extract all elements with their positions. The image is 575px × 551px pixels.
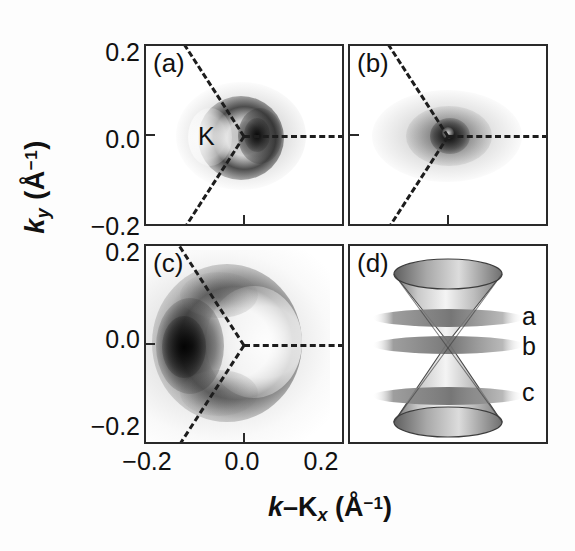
x-tick--0.2: −0.2 (111, 447, 183, 476)
x-tick-0.0: 0.0 (206, 447, 278, 476)
panel-a-xtick-0 (243, 215, 245, 224)
panel-a-label: (a) (153, 48, 185, 79)
plane-label-a: a (522, 302, 536, 331)
panel-c-xtick-0 (243, 433, 245, 442)
x-axis-label: k–Kx (Å−1) (120, 492, 540, 526)
panel-b: (b) (348, 44, 548, 226)
y-tick-bottom--0.2: −0.2 (91, 412, 140, 441)
y-tick-bottom-0.2: 0.2 (105, 238, 140, 267)
bz-line-c-right (244, 344, 344, 347)
y-tick-top--0.2: −0.2 (91, 212, 140, 241)
upper-cone-cap (394, 259, 502, 289)
energy-plane-a (372, 309, 524, 327)
lower-cone-cap (394, 407, 502, 437)
bz-line-a-right (244, 135, 344, 138)
bz-line-b-right (448, 135, 548, 138)
panel-c: (c) (144, 244, 344, 444)
k-point-label: K (198, 122, 215, 151)
x-tick-0.2: 0.2 (285, 447, 357, 476)
panel-a: K (a) (144, 44, 344, 226)
y-tick-label-column: 0.2 0.0 −0.2 0.2 0.0 −0.2 (48, 0, 140, 445)
panel-b-label: (b) (357, 48, 389, 79)
panel-c-ytick-0 (146, 343, 155, 345)
panel-d: (d) (348, 244, 548, 444)
panel-a-ytick-0 (146, 134, 155, 136)
energy-plane-c (372, 387, 524, 405)
panel-c-label: (c) (153, 248, 183, 279)
y-tick-top-0.0: 0.0 (105, 125, 140, 154)
energy-plane-b (372, 336, 524, 354)
y-tick-bottom-0.0: 0.0 (105, 325, 140, 354)
y-tick-top-0.2: 0.2 (105, 38, 140, 67)
panel-b-xtick-0 (447, 215, 449, 224)
panel-b-ytick-0 (350, 134, 359, 136)
plane-label-c: c (522, 378, 535, 407)
arpes-figure: ky (Å−1) 0.2 0.0 −0.2 0.2 0.0 −0.2 K (a) (0, 0, 575, 551)
plane-label-b: b (522, 332, 536, 361)
panel-d-label: (d) (357, 248, 389, 279)
